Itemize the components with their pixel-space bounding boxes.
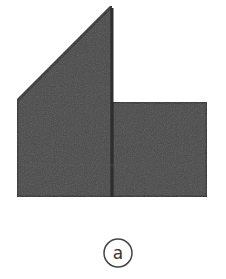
left-slanted-piece — [17, 6, 112, 197]
figure-canvas: a — [0, 0, 226, 279]
composite-shape-diagram: a — [0, 0, 226, 279]
figure-label: a — [104, 239, 132, 267]
label-letter: a — [113, 243, 123, 263]
right-rectangle-piece — [112, 102, 207, 197]
